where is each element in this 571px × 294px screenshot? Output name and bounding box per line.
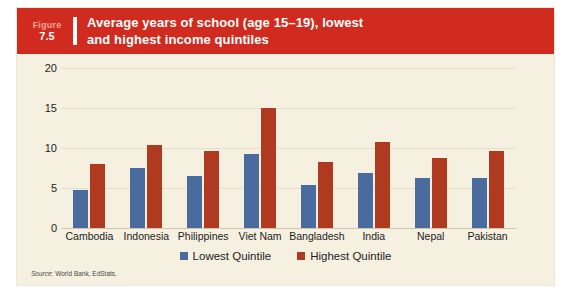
figure-label: Figure bbox=[23, 20, 71, 30]
header-divider-rule bbox=[73, 17, 77, 45]
chart-legend: Lowest QuintileHighest Quintile bbox=[17, 250, 554, 262]
bar-group bbox=[187, 68, 219, 228]
y-tick-label-20: 20 bbox=[23, 62, 57, 74]
bar-philippines-highest bbox=[204, 151, 219, 228]
figure-card: Figure 7.5 Average years of school (age … bbox=[17, 8, 554, 285]
bar-group bbox=[73, 68, 105, 228]
bar-india-lowest bbox=[358, 173, 373, 228]
legend-label: Lowest Quintile bbox=[193, 250, 272, 262]
x-tick-label-indonesia: Indonesia bbox=[124, 230, 170, 242]
x-tick-label-philippines: Philippines bbox=[178, 230, 229, 242]
legend-swatch-icon bbox=[180, 252, 188, 260]
bar-group bbox=[472, 68, 504, 228]
source-note: Source: World Bank, EdStats. bbox=[31, 270, 117, 277]
y-tick-label-10: 10 bbox=[23, 142, 57, 154]
bar-indonesia-lowest bbox=[130, 168, 145, 228]
figure-number-block: Figure 7.5 bbox=[23, 20, 71, 43]
bar-nepal-highest bbox=[432, 158, 447, 228]
chart-plot-area: 05101520 CambodiaIndonesiaPhilippinesVie… bbox=[17, 54, 554, 285]
bar-group bbox=[415, 68, 447, 228]
bar-bangladesh-lowest bbox=[301, 185, 316, 228]
y-axis: 05101520 bbox=[17, 68, 57, 228]
x-tick-label-bangladesh: Bangladesh bbox=[289, 230, 344, 242]
bar-india-highest bbox=[375, 142, 390, 228]
bar-cambodia-highest bbox=[90, 164, 105, 228]
bar-viet-nam-lowest bbox=[244, 154, 259, 228]
bar-indonesia-highest bbox=[147, 145, 162, 228]
y-tick-label-15: 15 bbox=[23, 102, 57, 114]
source-text: World Bank, EdStats. bbox=[55, 270, 117, 277]
bar-pakistan-highest bbox=[489, 151, 504, 228]
bar-cambodia-lowest bbox=[73, 190, 88, 228]
source-prefix: Source: bbox=[31, 270, 53, 277]
x-tick-label-cambodia: Cambodia bbox=[66, 230, 114, 242]
gridline-0 bbox=[61, 228, 516, 229]
y-tick-label-0: 0 bbox=[23, 222, 57, 234]
y-tick-label-5: 5 bbox=[23, 182, 57, 194]
legend-item: Lowest Quintile bbox=[180, 250, 272, 262]
bar-group bbox=[358, 68, 390, 228]
bar-philippines-lowest bbox=[187, 176, 202, 228]
chart-canvas bbox=[61, 68, 516, 228]
x-tick-label-nepal: Nepal bbox=[417, 230, 444, 242]
legend-swatch-icon bbox=[297, 252, 305, 260]
bar-group bbox=[301, 68, 333, 228]
legend-item: Highest Quintile bbox=[297, 250, 391, 262]
bar-viet-nam-highest bbox=[261, 108, 276, 228]
x-tick-label-pakistan: Pakistan bbox=[467, 230, 507, 242]
bar-group bbox=[130, 68, 162, 228]
x-axis-category-labels: CambodiaIndonesiaPhilippinesViet NamBang… bbox=[61, 230, 516, 246]
bar-nepal-lowest bbox=[415, 178, 430, 228]
figure-number: 7.5 bbox=[23, 30, 71, 43]
x-tick-label-india: India bbox=[362, 230, 385, 242]
figure-title: Average years of school (age 15–19), low… bbox=[87, 14, 363, 49]
bar-bangladesh-highest bbox=[318, 162, 333, 228]
legend-label: Highest Quintile bbox=[310, 250, 391, 262]
bar-group bbox=[244, 68, 276, 228]
figure-header-banner: Figure 7.5 Average years of school (age … bbox=[17, 8, 554, 54]
bar-pakistan-lowest bbox=[472, 178, 487, 228]
x-tick-label-viet-nam: Viet Nam bbox=[239, 230, 282, 242]
bars-layer bbox=[61, 68, 516, 228]
